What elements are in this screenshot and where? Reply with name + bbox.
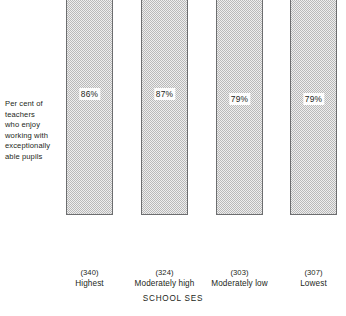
bar-value-label: 87% [154,88,175,100]
bar[interactable]: 79% [216,0,263,215]
bar-value-label: 79% [303,93,324,105]
sample-size: (307) [258,267,346,278]
bar-value-label: 86% [79,88,100,100]
bar-group: 79% [290,0,337,215]
bar-group: 79% [216,0,263,215]
bar-value-label: 79% [229,93,250,105]
bar-chart: Per cent of teachers who enjoy working w… [0,0,346,316]
x-axis-category-label: (307) Lowest [258,267,346,290]
bar-group: 87% [141,0,188,215]
bar-group: 86% [66,0,113,215]
bar[interactable]: 86% [66,0,113,215]
bar[interactable]: 79% [290,0,337,215]
plot-area: 86% 87% 79% 79% [0,0,346,266]
x-axis-title: SCHOOL SES [0,294,346,303]
category-name: Lowest [258,278,346,290]
bar[interactable]: 87% [141,0,188,215]
